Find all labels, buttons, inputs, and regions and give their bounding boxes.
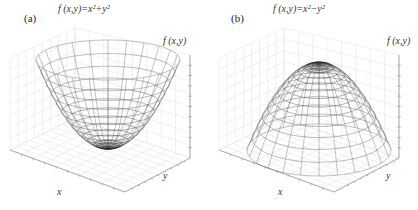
panel-b: (b) f (x,y)=x²−y² f (x,y) x y: [209, 0, 418, 210]
z-axis-label-a: f (x,y): [163, 35, 186, 46]
y-tick: [367, 175, 369, 176]
surface-meridian: [108, 55, 178, 148]
floor-grid-line: [69, 121, 184, 161]
y-tick: [145, 182, 147, 183]
x-axis-label-a: x: [57, 186, 61, 197]
surface-meridian: [108, 41, 127, 148]
y-axis-label-b: y: [386, 170, 390, 181]
floor-grid-line: [300, 146, 365, 179]
plot-title-b: f (x,y)=x²−y²: [273, 3, 325, 14]
y-tick: [158, 175, 160, 176]
y-tick: [171, 168, 173, 169]
x-axis-label-b: x: [278, 186, 282, 197]
surface-plot-a: [0, 0, 209, 210]
y-tick: [360, 178, 362, 179]
y-tick: [341, 189, 343, 190]
y-axis-label-a: y: [163, 170, 167, 181]
floor-grid-line: [102, 150, 167, 184]
panel-label-a: (a): [24, 12, 36, 24]
y-tick: [347, 185, 349, 186]
panel-a: (a) f (x,y)=x²+y² f (x,y) x y: [0, 0, 209, 210]
y-tick: [354, 182, 356, 183]
panel-label-b: (b): [231, 12, 244, 24]
floor-grid-line: [288, 142, 353, 175]
y-tick: [380, 168, 382, 169]
y-tick: [393, 161, 395, 162]
plot-title-a: f (x,y)=x²+y²: [58, 3, 110, 14]
y-tick: [177, 165, 179, 166]
y-tick: [132, 189, 134, 190]
surface-meridian: [319, 62, 338, 125]
y-tick: [184, 161, 186, 162]
y-tick: [386, 165, 388, 166]
floor-grid-line: [271, 124, 386, 164]
y-tick: [151, 178, 153, 179]
floor-grid-line: [91, 146, 156, 179]
surface-meridian: [319, 63, 355, 128]
z-axis-label-b: f (x,y): [387, 35, 410, 46]
y-tick: [138, 185, 140, 186]
y-tick: [373, 172, 375, 173]
floor-grid-line: [278, 121, 393, 161]
surface-meridian: [283, 63, 319, 128]
